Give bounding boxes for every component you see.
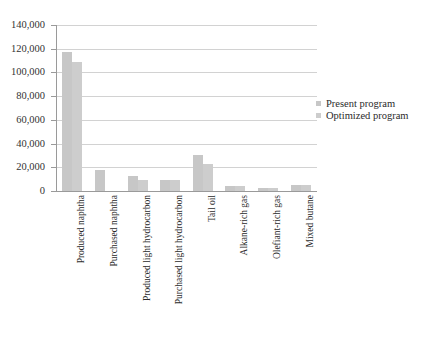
bar <box>268 188 278 191</box>
gridline <box>56 191 317 192</box>
y-axis-tick-label: 60,000 <box>16 115 45 125</box>
bar <box>128 176 138 191</box>
x-axis-category-label: Alkane-rich gas <box>239 195 249 255</box>
bar <box>160 180 170 191</box>
legend-item-label: Present program <box>326 98 395 110</box>
bar-chart: 020,00040,00060,00080,000100,000120,0001… <box>0 0 423 343</box>
legend-item-label: Optimized program <box>326 110 409 122</box>
legend-swatch-icon <box>316 113 321 118</box>
x-axis-category-label: Produced light hydrocarbon <box>142 195 152 301</box>
bar <box>258 188 268 191</box>
y-axis-tick-label: 140,000 <box>11 20 45 30</box>
y-axis-tick-labels: 020,00040,00060,00080,000100,000120,0001… <box>0 0 52 343</box>
y-axis-tick-label: 0 <box>40 186 45 196</box>
x-axis-category-label: Mixed butane <box>305 195 315 248</box>
bar <box>203 164 213 191</box>
y-axis-tick-label: 40,000 <box>16 139 45 149</box>
bar <box>301 185 311 191</box>
y-axis-tick-label: 80,000 <box>16 91 45 101</box>
bar <box>170 180 180 191</box>
x-axis-category-label: Purchased light hydrocarbon <box>174 195 184 304</box>
bar <box>95 170 105 191</box>
x-axis-category-labels: Produced naphthaPurchased naphthaProduce… <box>56 195 317 343</box>
x-axis-category-label: Produced naphtha <box>76 195 86 263</box>
legend-item-optimized-program: Optimized program <box>316 110 420 122</box>
bar <box>193 155 203 191</box>
legend-swatch-icon <box>316 101 321 106</box>
bar <box>72 62 82 191</box>
bar <box>62 52 72 191</box>
bar <box>291 185 301 191</box>
x-axis-category-label: Tail oil <box>207 195 217 222</box>
bar <box>225 186 235 191</box>
y-axis-tick-label: 100,000 <box>11 67 45 77</box>
bar <box>138 180 148 191</box>
x-axis-category-label: Olefiant-rich gas <box>272 195 282 259</box>
chart-legend: Present program Optimized program <box>316 98 420 122</box>
x-axis-category-label: Purchased naphtha <box>109 195 119 267</box>
bar <box>235 186 245 191</box>
y-axis-tick-label: 120,000 <box>11 44 45 54</box>
legend-item-present-program: Present program <box>316 98 420 110</box>
y-axis-tick-label: 20,000 <box>16 162 45 172</box>
bars-layer <box>56 25 317 191</box>
